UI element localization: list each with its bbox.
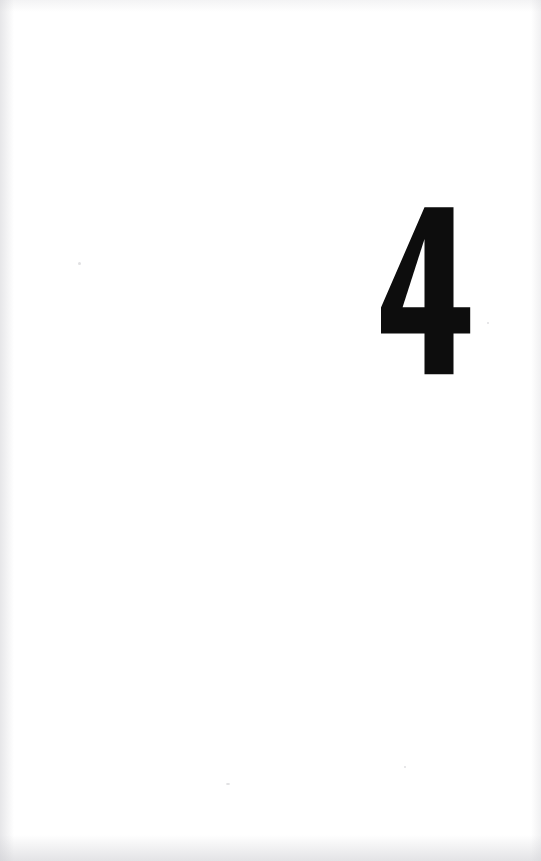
paper-speck [78, 262, 81, 265]
paper-speck [226, 783, 230, 785]
scan-edge-bottom [0, 835, 541, 861]
scan-edge-right [531, 0, 541, 861]
paper-speck [487, 322, 489, 324]
chapter-number: 4 [374, 201, 478, 383]
chapter-divider-page: 4 [0, 0, 541, 861]
numeral-four-outer-path [381, 207, 470, 374]
scan-edge-left [0, 0, 14, 861]
numeral-four-icon [374, 201, 478, 383]
scan-edge-top [0, 0, 541, 12]
paper-speck [404, 766, 406, 768]
